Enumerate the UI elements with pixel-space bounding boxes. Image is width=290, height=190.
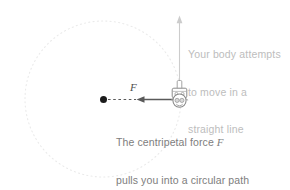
circle-center-dot (100, 96, 107, 103)
physics-diagram-figure: F Your body attempts to move in a straig… (0, 0, 290, 190)
force-symbol-label: F (130, 81, 137, 94)
centripetal-caption-line-1-text: The centripetal force (116, 136, 217, 148)
straight-line-note-line-1: Your body attempts (188, 48, 281, 61)
straight-line-note-line-2: to move in a (188, 86, 281, 99)
centripetal-caption-line-1: The centripetal force F (116, 136, 249, 149)
centripetal-caption-line-2: pulls you into a circular path (116, 174, 249, 187)
centripetal-force-arrow (137, 96, 177, 102)
centripetal-caption-symbol: F (217, 136, 224, 148)
centripetal-caption: The centripetal force F pulls you into a… (116, 111, 249, 190)
rider-figure (171, 81, 188, 108)
